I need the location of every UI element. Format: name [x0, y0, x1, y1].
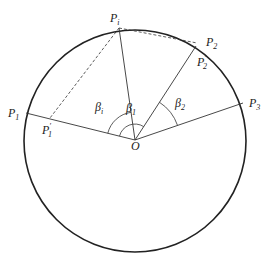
label-beta-2: β2: [174, 96, 185, 112]
label-center-o: O: [131, 139, 140, 153]
dashed-pi-p2: [119, 28, 197, 43]
angle-arc-beta-1: [120, 124, 144, 136]
label-p-1-prime: P′1: [41, 122, 52, 139]
label-p-1: P1: [7, 106, 19, 122]
label-beta-1: β1: [125, 101, 136, 117]
label-beta-i: βi: [94, 100, 103, 116]
geometry-diagram: Pi P2 P′2 P3 P1 P′1 βi β1 β2 O: [0, 0, 266, 258]
angle-arc-beta-i: [108, 112, 131, 133]
line-o-p3: [135, 103, 243, 140]
label-p-3: P3: [248, 96, 260, 112]
line-o-p2prime: [135, 46, 196, 140]
label-p-i: Pi: [109, 11, 120, 27]
line-o-pi: [119, 28, 135, 140]
label-p-2: P2: [205, 35, 217, 51]
label-p-2-prime: P′2: [196, 54, 207, 71]
